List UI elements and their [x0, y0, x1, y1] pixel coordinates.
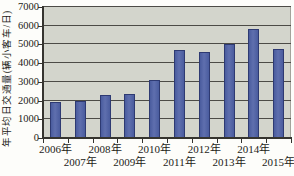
- y-axis-line: [42, 6, 44, 139]
- x-tick-label-2013年: 2013年: [205, 156, 253, 169]
- bar-2008年: [100, 95, 111, 138]
- x-tick-label-2014年: 2014年: [230, 143, 278, 156]
- y-tick-label-1000: 1000: [0, 113, 39, 125]
- bar-2012年: [199, 52, 210, 138]
- y-tick-mark-1000: [38, 119, 42, 120]
- bar-2009年: [124, 94, 135, 138]
- gridline-7000: [43, 6, 291, 7]
- y-tick-mark-5000: [38, 44, 42, 45]
- bar-2015年: [273, 49, 284, 138]
- x-tick-label-2015年: 2015年: [255, 156, 294, 169]
- y-tick-mark-7000: [38, 7, 42, 8]
- bar-2014年: [248, 29, 259, 138]
- bar-2011年: [174, 50, 185, 138]
- x-tick-mark-10: [291, 139, 292, 143]
- x-tick-label-2009年: 2009年: [106, 156, 154, 169]
- y-tick-label-5000: 5000: [0, 38, 39, 50]
- plot-area: [43, 7, 291, 138]
- y-tick-mark-0: [38, 138, 42, 139]
- y-tick-label-3000: 3000: [0, 76, 39, 88]
- y-tick-label-4000: 4000: [0, 57, 39, 69]
- bar-2013年: [224, 44, 235, 138]
- y-tick-mark-4000: [38, 63, 42, 64]
- y-tick-label-2000: 2000: [0, 95, 39, 107]
- y-tick-label-6000: 6000: [0, 20, 39, 32]
- bar-2010年: [149, 80, 160, 138]
- y-tick-label-7000: 7000: [0, 1, 39, 13]
- bar-2006年: [50, 102, 61, 138]
- x-tick-label-2006年: 2006年: [31, 143, 79, 156]
- x-tick-label-2010年: 2010年: [131, 143, 179, 156]
- y-tick-mark-2000: [38, 101, 42, 102]
- y-tick-mark-6000: [38, 26, 42, 27]
- traffic-volume-bar-chart: 年平均日交通量(辆小客车/日) 010002000300040005000600…: [0, 0, 294, 176]
- bar-2007年: [75, 101, 86, 138]
- x-tick-label-2012年: 2012年: [180, 143, 228, 156]
- y-tick-mark-3000: [38, 82, 42, 83]
- x-tick-label-2007年: 2007年: [56, 156, 104, 169]
- gridline-6000: [43, 25, 291, 26]
- x-tick-label-2008年: 2008年: [81, 143, 129, 156]
- x-tick-label-2011年: 2011年: [155, 156, 203, 169]
